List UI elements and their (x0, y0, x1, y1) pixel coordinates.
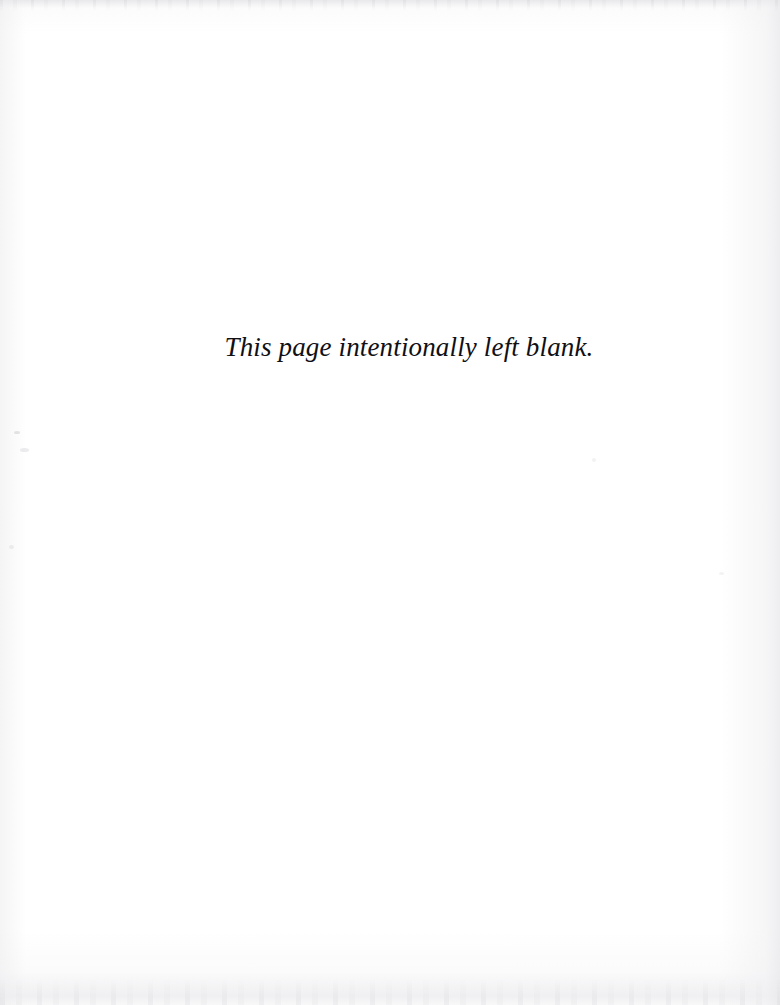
scan-speck (9, 545, 14, 549)
scan-speck (592, 458, 596, 462)
scan-speck (14, 431, 20, 434)
scan-speck (20, 448, 29, 452)
top-scan-edge-artifact (0, 0, 780, 11)
intentionally-blank-notice: This page intentionally left blank. (0, 327, 780, 367)
bottom-scan-edge-artifact (0, 979, 780, 1005)
scan-speck (719, 572, 724, 575)
scanned-page: This page intentionally left blank. (0, 0, 780, 1005)
